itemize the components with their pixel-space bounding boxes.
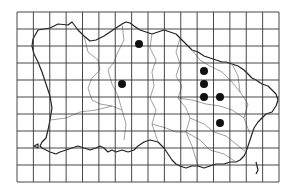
record-dot	[118, 80, 126, 88]
record-dot	[200, 67, 208, 75]
grid-lines	[17, 12, 279, 182]
record-dot	[135, 40, 143, 48]
record-dot	[200, 93, 208, 101]
coastline	[32, 22, 278, 174]
record-dot	[200, 80, 208, 88]
map-canvas	[0, 0, 297, 194]
distribution-map	[0, 0, 297, 194]
record-dot	[216, 119, 224, 127]
record-dot	[216, 93, 224, 101]
